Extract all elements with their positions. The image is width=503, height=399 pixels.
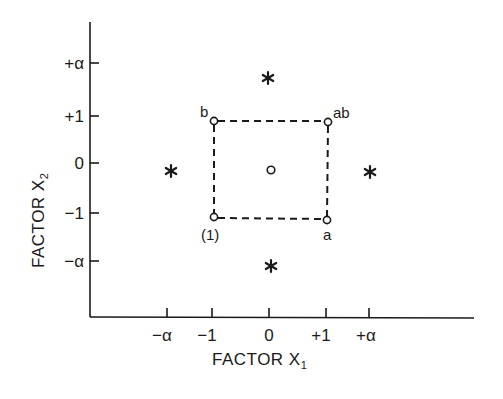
axes	[90, 22, 474, 318]
x-axis-title-text: FACTOR X	[212, 350, 301, 369]
y-tick-label: −1	[65, 204, 84, 223]
point-label-1: (1)	[201, 226, 219, 243]
point-label-b: b	[200, 103, 208, 120]
point-label-ab: ab	[333, 104, 350, 121]
center-point	[267, 166, 275, 174]
y-axis-ticks	[90, 63, 99, 261]
point-1	[210, 213, 217, 220]
central-composite-design-diagram: +α +1 0 −1 −α FACTOR X2 −α −1 0 +1 +α FA…	[0, 0, 503, 399]
x-tick-label: +α	[356, 326, 376, 345]
x-axis-line	[90, 317, 474, 318]
asterisk-icon	[166, 165, 176, 177]
point-ab	[324, 118, 331, 125]
point-b	[210, 117, 217, 124]
y-tick-label: +α	[64, 54, 84, 73]
y-tick-label: +1	[65, 107, 84, 126]
square-right-edge	[327, 126, 328, 217]
asterisk-icon	[266, 260, 276, 272]
point-label-a: a	[323, 226, 332, 243]
square-bottom-edge	[218, 218, 323, 219]
asterisk-icon	[365, 166, 375, 178]
y-tick-label: 0	[75, 154, 84, 173]
x-axis-title-subscript: 1	[301, 359, 308, 371]
x-axis-title: FACTOR X1	[212, 350, 307, 371]
svg-text:FACTOR X2: FACTOR X2	[29, 173, 50, 268]
y-axis-tick-labels: +α +1 0 −1 −α	[64, 54, 84, 271]
point-a	[323, 216, 330, 223]
x-tick-label: 0	[264, 326, 273, 345]
x-tick-label: −1	[197, 326, 216, 345]
x-tick-label: −α	[152, 326, 172, 345]
y-axis-title-subscript: 2	[38, 173, 50, 180]
x-axis-tick-labels: −α −1 0 +1 +α	[152, 326, 376, 345]
x-tick-label: +1	[311, 326, 330, 345]
y-axis-title: FACTOR X2	[29, 173, 50, 268]
asterisk-icon	[263, 72, 273, 84]
y-tick-label: −α	[64, 252, 84, 271]
y-axis-title-text: FACTOR X	[29, 179, 48, 268]
